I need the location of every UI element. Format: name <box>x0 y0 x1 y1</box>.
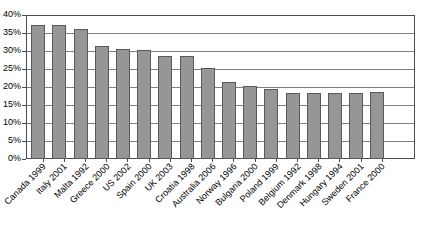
y-tick-label: 20% <box>0 82 21 91</box>
y-tick-label: 15% <box>0 100 21 109</box>
y-tick-label: 25% <box>0 64 21 73</box>
y-tick-label: 10% <box>0 118 21 127</box>
y-tick-label: 35% <box>0 28 21 37</box>
y-tick-label: 40% <box>0 10 21 19</box>
x-axis-labels: Canada 1999Italy 2001Malta 1992Greece 20… <box>26 160 431 247</box>
y-tick-label: 30% <box>0 46 21 55</box>
y-tick-label: 5% <box>0 136 21 145</box>
bar-chart: 0%5%10%15%20%25%30%35%40% Canada 1999Ita… <box>0 0 431 247</box>
y-tick-label: 0% <box>0 154 21 163</box>
y-axis: 0%5%10%15%20%25%30%35%40% <box>0 0 26 174</box>
bar <box>31 25 45 159</box>
